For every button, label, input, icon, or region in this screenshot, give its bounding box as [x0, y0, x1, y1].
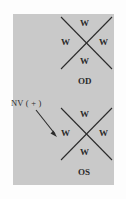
od-quadrant-nasal-label: W: [61, 38, 70, 47]
os-eye-label: OS: [78, 168, 90, 177]
os-quadrant-temporal-label: W: [99, 129, 108, 138]
os-quadrant-inferior-label: W: [80, 148, 89, 157]
od-quadrant-inferior-label: W: [80, 57, 89, 66]
nv-annotation-label: NV ( + ): [11, 99, 42, 108]
os-quadrant-nasal-label: W: [61, 129, 70, 138]
od-eye-label: OD: [78, 77, 92, 86]
od-quadrant-superior-label: W: [80, 19, 89, 28]
figure-root: W W W W OD W W W W OS NV ( + ): [0, 0, 126, 199]
os-quadrant-superior-label: W: [80, 110, 89, 119]
od-quadrant-temporal-label: W: [99, 38, 108, 47]
